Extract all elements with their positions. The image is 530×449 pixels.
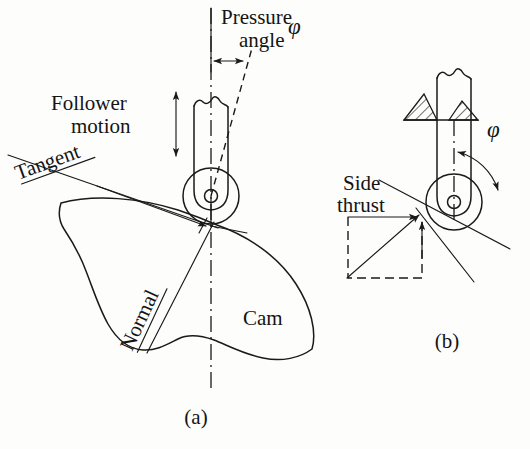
normal-line	[147, 222, 214, 353]
pressure-angle-label-line2: angle	[239, 28, 284, 52]
normal-force-line-b	[379, 180, 510, 249]
contact-normal-lower-b	[416, 208, 474, 282]
tangent-leader-arrow	[97, 186, 206, 226]
pressure-angle-label-line1: Pressure	[221, 5, 292, 29]
follower-motion-label-line2: motion	[71, 114, 131, 138]
phi-symbol-a: φ	[288, 14, 301, 39]
phi-symbol-b: φ	[487, 117, 500, 142]
cam-label: Cam	[243, 306, 283, 330]
resultant-force-arrow-b	[347, 215, 419, 278]
side-thrust-label-line1: Side	[343, 171, 380, 195]
cam-pressure-angle-figure: Pressure angle φ Follower motion Tangent…	[0, 0, 530, 449]
pressure-angle-normal-extension	[211, 48, 252, 196]
tangent-label-group: Tangent	[12, 135, 95, 185]
cam-profile-outline	[59, 198, 313, 359]
pressure-angle-arc-b	[458, 152, 498, 190]
side-thrust-label-line2: thrust	[337, 193, 385, 217]
figure-container: Pressure angle φ Follower motion Tangent…	[0, 0, 530, 449]
tangent-line-right-extension	[211, 226, 247, 233]
panel-a-caption: (a)	[184, 405, 207, 429]
panel-b: φ Side thrust (b)	[337, 69, 510, 353]
normal-label-group: Normal	[115, 279, 167, 354]
panel-b-caption: (b)	[435, 329, 460, 353]
panel-a: Pressure angle φ Follower motion Tangent…	[8, 5, 314, 429]
support-hatch-right	[449, 101, 478, 120]
follower-motion-label-line1: Follower	[51, 91, 127, 115]
force-construction-rectangle-b	[348, 217, 422, 278]
support-hatch-left	[404, 94, 437, 120]
normal-label: Normal	[115, 286, 164, 354]
follower-stem-break-line-b	[437, 69, 471, 79]
